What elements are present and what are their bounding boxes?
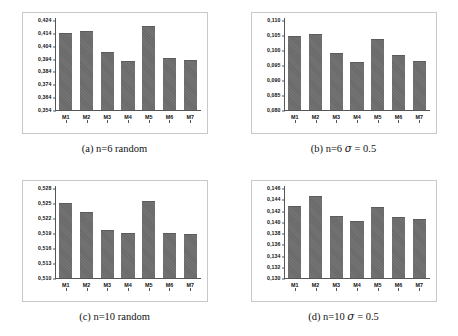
- chart-frame-a: 0,3540,3640,3740,3840,3940,4040,4140,424…: [22, 12, 208, 134]
- bar-m3: [330, 216, 343, 278]
- bar-slot: [118, 189, 139, 278]
- bar-m4: [121, 233, 134, 278]
- bar-m4: [121, 61, 134, 110]
- x-tick-mark: [66, 288, 67, 291]
- plot-area-d: 0,1300,1320,1340,1360,1380,1400,1420,144…: [284, 189, 430, 279]
- bar-slot: [138, 21, 159, 110]
- x-tick-mark: [419, 288, 420, 291]
- bar-m3: [330, 53, 343, 110]
- chart-frame-b: 0,0800,0850,0900,0950,1000,1050,110 M1M2…: [251, 12, 437, 134]
- x-tick-mark: [87, 120, 88, 123]
- x-tick-label-m1: M1: [285, 111, 306, 120]
- panel-caption-c: (c) n=10 random: [79, 311, 150, 323]
- bar-slot: [347, 189, 368, 278]
- bar-m1: [59, 203, 72, 278]
- bar-m7: [413, 219, 426, 278]
- x-tick-label-m4: M4: [347, 111, 368, 120]
- bar-m5: [371, 39, 384, 110]
- x-tick-mark: [149, 288, 150, 291]
- bar-m2: [309, 196, 322, 278]
- bar-m7: [413, 61, 426, 110]
- x-tick-mark: [316, 288, 317, 291]
- bar-slot: [159, 189, 180, 278]
- chart-panel-b: 0,0800,0850,0900,0950,1000,1050,110 M1M2…: [229, 0, 458, 168]
- x-tick-mark: [107, 288, 108, 291]
- bar-slot: [76, 189, 97, 278]
- x-tick-mark: [169, 120, 170, 123]
- x-tick-label-m6: M6: [388, 279, 409, 288]
- caption-label: (a): [82, 143, 96, 154]
- bar-slot: [326, 189, 347, 278]
- bar-slot: [159, 21, 180, 110]
- bar-group-d: [285, 189, 430, 278]
- bar-m1: [288, 206, 301, 278]
- x-tick-label-m7: M7: [409, 111, 430, 120]
- bar-m1: [59, 33, 72, 110]
- bar-m1: [288, 36, 301, 110]
- x-tick-label-m6: M6: [159, 111, 180, 120]
- x-tick-mark: [378, 120, 379, 123]
- x-tick-label-m5: M5: [367, 111, 388, 120]
- chart-frame-d: 0,1300,1320,1340,1360,1380,1400,1420,144…: [251, 180, 437, 302]
- bar-m2: [80, 31, 93, 110]
- x-tick-label-m7: M7: [180, 279, 201, 288]
- bar-m6: [392, 217, 405, 278]
- bar-m2: [309, 34, 322, 110]
- x-tick-label-m3: M3: [326, 279, 347, 288]
- bar-slot: [56, 189, 77, 278]
- x-tick-label-m4: M4: [347, 279, 368, 288]
- chart-panel-a: 0,3540,3640,3740,3840,3940,4040,4140,424…: [0, 0, 229, 168]
- caption-text: n=10 σ = 0.5: [323, 311, 379, 322]
- bar-slot: [347, 21, 368, 110]
- bar-m6: [163, 58, 176, 110]
- x-tick-mark: [295, 120, 296, 123]
- bar-slot: [305, 21, 326, 110]
- caption-label: (d): [308, 311, 323, 322]
- bar-m3: [101, 230, 114, 278]
- bar-slot: [180, 21, 201, 110]
- x-tick-mark: [295, 288, 296, 291]
- bar-slot: [367, 189, 388, 278]
- x-tick-mark: [87, 288, 88, 291]
- x-tick-mark: [398, 120, 399, 123]
- bar-group-b: [285, 21, 430, 110]
- x-label-group-c: M1M2M3M4M5M6M7: [56, 279, 201, 288]
- x-tick-mark: [128, 120, 129, 123]
- bar-slot: [97, 189, 118, 278]
- bar-group-a: [56, 21, 201, 110]
- x-tick-mark: [357, 120, 358, 123]
- x-label-group-a: M1M2M3M4M5M6M7: [56, 111, 201, 120]
- bar-slot: [97, 21, 118, 110]
- x-tick-label-m6: M6: [388, 111, 409, 120]
- x-tick-mark: [336, 288, 337, 291]
- x-tick-mark: [357, 288, 358, 291]
- x-tick-mark: [378, 288, 379, 291]
- x-tick-label-m7: M7: [409, 279, 430, 288]
- x-tick-label-m2: M2: [76, 111, 97, 120]
- caption-text: n=6 random: [96, 143, 147, 154]
- x-tick-label-m4: M4: [118, 111, 139, 120]
- bar-m7: [184, 234, 197, 279]
- x-tick-mark: [316, 120, 317, 123]
- x-tick-label-m3: M3: [326, 111, 347, 120]
- bar-m2: [80, 212, 93, 278]
- x-tick-mark: [190, 288, 191, 291]
- x-tick-label-m5: M5: [138, 111, 159, 120]
- bar-slot: [285, 189, 306, 278]
- x-tick-label-m5: M5: [138, 279, 159, 288]
- x-tick-label-m4: M4: [118, 279, 139, 288]
- bar-slot: [305, 189, 326, 278]
- plot-area-a: 0,3540,3640,3740,3840,3940,4040,4140,424…: [55, 21, 201, 111]
- bar-group-c: [56, 189, 201, 278]
- x-tick-mark: [66, 120, 67, 123]
- bar-m6: [392, 55, 405, 110]
- x-tick-mark: [107, 120, 108, 123]
- x-tick-mark: [398, 288, 399, 291]
- bar-slot: [76, 21, 97, 110]
- x-label-group-b: M1M2M3M4M5M6M7: [285, 111, 430, 120]
- bar-slot: [388, 189, 409, 278]
- bar-m4: [350, 221, 363, 278]
- x-tick-mark: [336, 120, 337, 123]
- panel-caption-a: (a) n=6 random: [82, 143, 147, 155]
- sigma-symbol: σ: [347, 310, 354, 322]
